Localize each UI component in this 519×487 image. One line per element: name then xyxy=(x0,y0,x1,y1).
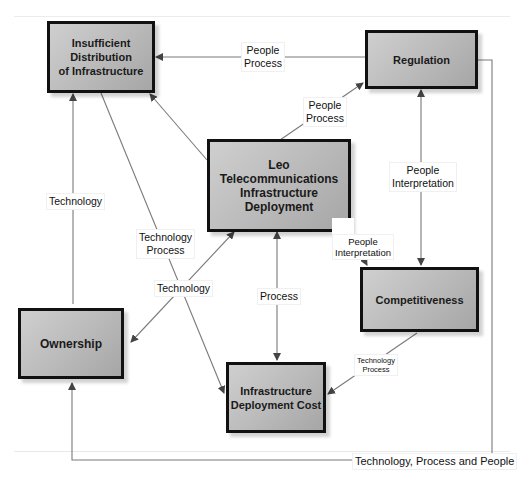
node-ownership[interactable]: Ownership xyxy=(18,308,124,379)
node-competitiveness[interactable]: Competitiveness xyxy=(360,267,479,332)
node-label: Leo Telecommunications Infrastructure De… xyxy=(210,158,348,214)
node-leo-telecommunications[interactable]: Leo Telecommunications Infrastructure De… xyxy=(207,139,351,232)
edge-label-regulation-ownership: Technology, Process and People xyxy=(352,453,517,470)
node-label: Competitiveness xyxy=(375,293,463,307)
node-infrastructure-deployment-cost[interactable]: Infrastructure Deployment Cost xyxy=(226,362,326,433)
edge-label-insufficient-cost: Technology Process xyxy=(136,229,195,259)
edge-label-leo-ownership: Technology xyxy=(154,280,213,297)
edge-label-regulation-competitiveness: People Interpretation xyxy=(389,162,457,192)
node-label: Insufficient Distribution of Infrastruct… xyxy=(50,36,152,78)
node-regulation[interactable]: Regulation xyxy=(365,30,478,89)
edge-leo-insufficient xyxy=(150,94,207,160)
node-label: Regulation xyxy=(393,53,450,67)
edge-label-ownership-insufficient: Technology xyxy=(46,193,105,210)
diagram-canvas: Insufficient Distribution of Infrastruct… xyxy=(0,0,519,487)
node-label: Infrastructure Deployment Cost xyxy=(231,384,321,412)
edge-label-leo-cost: Process xyxy=(257,288,301,305)
edge-label-leo-competitiveness: People Interpretation xyxy=(332,234,394,260)
edge-label-leo-regulation: People Process xyxy=(303,97,347,127)
node-label: Ownership xyxy=(40,337,102,351)
edge-label-regulation-insufficient: People Process xyxy=(241,42,285,72)
node-insufficient-distribution[interactable]: Insufficient Distribution of Infrastruct… xyxy=(47,21,155,93)
edge-label-competitiveness-cost: Technology Process xyxy=(354,354,398,376)
